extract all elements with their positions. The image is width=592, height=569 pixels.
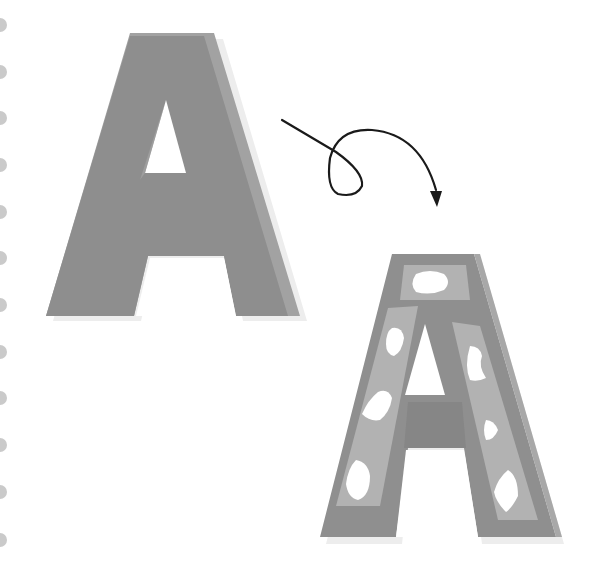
binder-hole-icon (0, 298, 7, 312)
binder-hole-icon (0, 533, 7, 547)
binder-holes (0, 18, 7, 547)
binder-hole-icon (0, 251, 7, 265)
binder-hole-icon (0, 158, 7, 172)
arrow-head-icon (430, 191, 442, 207)
binder-hole-icon (0, 18, 7, 32)
binder-hole-icon (0, 111, 7, 125)
transformation-arrow (282, 120, 436, 195)
binder-hole-icon (0, 65, 7, 79)
binder-hole-icon (0, 485, 7, 499)
plain-letter-a (46, 33, 307, 321)
letter-transformation-illustration (0, 0, 592, 569)
illustration-canvas (0, 0, 592, 569)
spot-icon (413, 271, 449, 294)
decorated-letter-a (320, 254, 564, 544)
binder-hole-icon (0, 391, 7, 405)
binder-hole-icon (0, 345, 7, 359)
binder-hole-icon (0, 205, 7, 219)
binder-hole-icon (0, 438, 7, 452)
